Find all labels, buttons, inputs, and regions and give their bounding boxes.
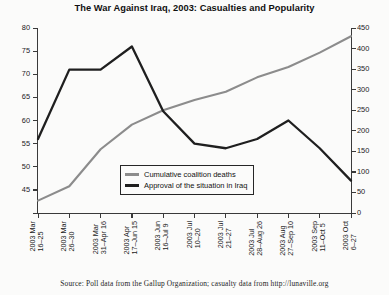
y-tick-label-left: 55 [8,140,30,147]
y-tick-label-right: 50 [357,188,381,195]
x-tick [163,214,164,218]
y-tick-left [33,51,37,52]
y-tick-left [33,213,37,214]
y-tick-label-right: 100 [357,168,381,175]
line-approval-of-situation-in-iraq [38,47,351,181]
y-tick-label-right: 0 [357,209,381,216]
y-tick-right [352,213,356,214]
y-tick-label-left: 75 [8,47,30,54]
legend-item-approval: Approval of the situation in Iraq [125,180,247,191]
x-tick-label: 2003 Jul28–Aug 26 [248,221,265,256]
y-tick-left [33,189,37,190]
legend-item-deaths: Cumulative coalition deaths [125,169,247,180]
y-tick-label-left: 80 [8,24,30,31]
legend-label-deaths: Cumulative coalition deaths [144,170,236,179]
y-tick-left [33,97,37,98]
x-tick [319,214,320,218]
legend-label-approval: Approval of the situation in Iraq [144,181,247,190]
y-tick-right [352,151,356,152]
x-tick [288,214,289,218]
y-tick-label-left: 45 [8,186,30,193]
x-tick-label: 2003 Mar26–30 [60,221,77,251]
x-tick-label: 2003 Apr17–Jun 15 [123,221,140,255]
x-tick [257,214,258,218]
y-axis-right [351,28,352,214]
y-tick-left [33,28,37,29]
y-tick-right [352,130,356,131]
x-tick [194,214,195,218]
legend-swatch-approval [125,184,139,187]
x-tick [69,214,70,218]
x-tick-label: 2003 Mar16–25 [29,221,46,251]
x-tick-label: 2003 Jul21–27 [217,221,234,248]
y-tick-label-left: 60 [8,117,30,124]
x-tick [351,214,352,218]
y-tick-left [33,166,37,167]
y-tick-left [33,74,37,75]
y-tick-label-left: 70 [8,70,30,77]
x-tick-label: 2003 Jul10–20 [186,221,203,248]
y-tick-label-right: 200 [357,127,381,134]
y-tick-label-left: 50 [8,163,30,170]
y-tick-right [352,171,356,172]
x-tick-label: 2003 Jun16–Jul 9 [154,221,171,251]
chart-title: The War Against Iraq, 2003: Casualties a… [0,3,389,13]
x-tick [225,214,226,218]
y-tick-label-right: 450 [357,24,381,31]
x-tick-label: 2003 Oct6–27 [342,221,359,250]
chart-legend: Cumulative coalition deaths Approval of … [120,165,254,195]
x-tick-label: 2003 Mar31–Apr 16 [92,221,109,254]
y-tick-right [352,89,356,90]
y-tick-label-right: 250 [357,106,381,113]
y-tick-label-right: 350 [357,65,381,72]
y-tick-left [33,120,37,121]
y-tick-label-right: 400 [357,45,381,52]
y-tick-right [352,69,356,70]
y-tick-right [352,28,356,29]
y-axis-left [37,28,38,214]
x-tick [38,214,39,218]
x-tick [131,214,132,218]
x-tick [100,214,101,218]
y-tick-right [352,110,356,111]
y-tick-right [352,48,356,49]
chart-figure: The War Against Iraq, 2003: Casualties a… [0,0,389,295]
y-tick-label-right: 300 [357,86,381,93]
y-tick-left [33,143,37,144]
y-tick-label-right: 150 [357,147,381,154]
x-tick-label: 2003 Aug27–Sep 10 [279,221,296,256]
y-tick-label-left: 65 [8,93,30,100]
legend-swatch-deaths [125,173,139,175]
x-tick-label: 2003 Sep11–Oct 5 [311,221,328,252]
y-tick-right [352,192,356,193]
source-note: Source: Poll data from the Gallup Organi… [0,279,389,288]
